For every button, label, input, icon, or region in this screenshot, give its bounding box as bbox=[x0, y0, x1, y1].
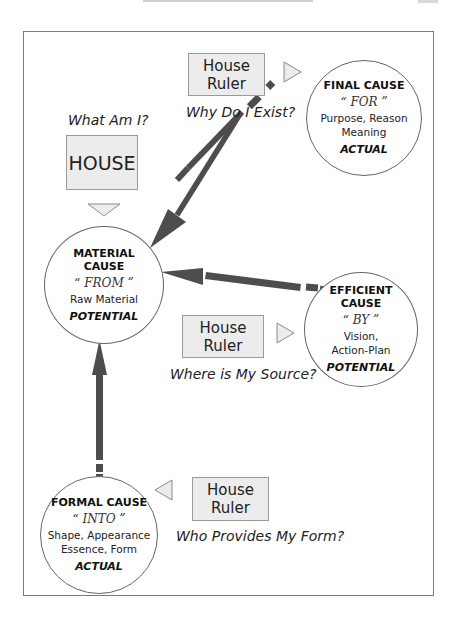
efficient-cause-circle: EFFICIENT CAUSE “ BY ” Vision, Action-Pl… bbox=[304, 272, 418, 387]
final-cause-state: ACTUAL bbox=[340, 143, 388, 157]
efficient-cause-state: POTENTIAL bbox=[327, 361, 396, 375]
material-cause-state: POTENTIAL bbox=[70, 310, 139, 324]
final-ruler-right-triangle-icon bbox=[284, 62, 301, 82]
material-cause-title-1: MATERIAL bbox=[73, 247, 135, 260]
efficient-cause-title-1: EFFICIENT bbox=[329, 284, 392, 297]
final-cause-description-2: Meaning bbox=[342, 125, 387, 139]
final-ruler-line1: House bbox=[203, 57, 250, 75]
efficient-house-ruler-box: House Ruler bbox=[182, 315, 264, 358]
efficient-ruler-right-triangle-icon bbox=[277, 323, 294, 343]
final-house-ruler-box: House Ruler bbox=[188, 53, 265, 96]
formal-cause-state: ACTUAL bbox=[75, 560, 123, 574]
final-cause-description-1: Purpose, Reason bbox=[320, 111, 407, 125]
efficient-cause-preposition: “ BY ” bbox=[343, 313, 379, 327]
arrow-formal-to-material bbox=[92, 340, 107, 479]
formal-cause-preposition: “ INTO ” bbox=[73, 512, 126, 526]
final-ruler-line2: Ruler bbox=[207, 75, 246, 93]
final-question: Why Do I Exist? bbox=[186, 104, 295, 120]
house-down-triangle-icon bbox=[88, 204, 120, 216]
formal-cause-title: FORMAL CAUSE bbox=[51, 496, 147, 509]
efficient-question: Where is My Source? bbox=[170, 366, 316, 382]
formal-ruler-line1: House bbox=[207, 481, 254, 499]
formal-ruler-left-triangle-icon bbox=[155, 480, 172, 500]
material-cause-description-1: Raw Material bbox=[70, 292, 138, 306]
formal-ruler-line2: Ruler bbox=[211, 499, 250, 517]
formal-cause-description-1: Shape, Appearance bbox=[48, 528, 151, 542]
final-cause-title: FINAL CAUSE bbox=[324, 79, 405, 92]
arrow-efficient-to-material bbox=[161, 268, 325, 292]
efficient-ruler-line1: House bbox=[199, 319, 246, 337]
subject-house-label: HOUSE bbox=[68, 154, 135, 172]
final-cause-circle: FINAL CAUSE “ FOR ” Purpose, Reason Mean… bbox=[306, 60, 422, 176]
final-cause-preposition: “ FOR ” bbox=[340, 95, 387, 109]
material-cause-title-2: CAUSE bbox=[84, 260, 125, 273]
formal-question: Who Provides My Form? bbox=[176, 528, 344, 544]
formal-cause-circle: FORMAL CAUSE “ INTO ” Shape, Appearance … bbox=[40, 476, 158, 594]
efficient-cause-description-2: Action-Plan bbox=[331, 343, 390, 357]
formal-house-ruler-box: House Ruler bbox=[192, 477, 269, 521]
subject-house-box: HOUSE bbox=[66, 135, 138, 190]
efficient-ruler-line2: Ruler bbox=[204, 337, 243, 355]
efficient-cause-description-1: Vision, bbox=[344, 329, 379, 343]
efficient-cause-title-2: CAUSE bbox=[341, 297, 382, 310]
material-cause-preposition: “ FROM ” bbox=[74, 276, 133, 290]
subject-question: What Am I? bbox=[68, 112, 148, 128]
material-cause-circle: MATERIAL CAUSE “ FROM ” Raw Material POT… bbox=[44, 226, 164, 344]
formal-cause-description-2: Essence, Form bbox=[61, 542, 137, 556]
